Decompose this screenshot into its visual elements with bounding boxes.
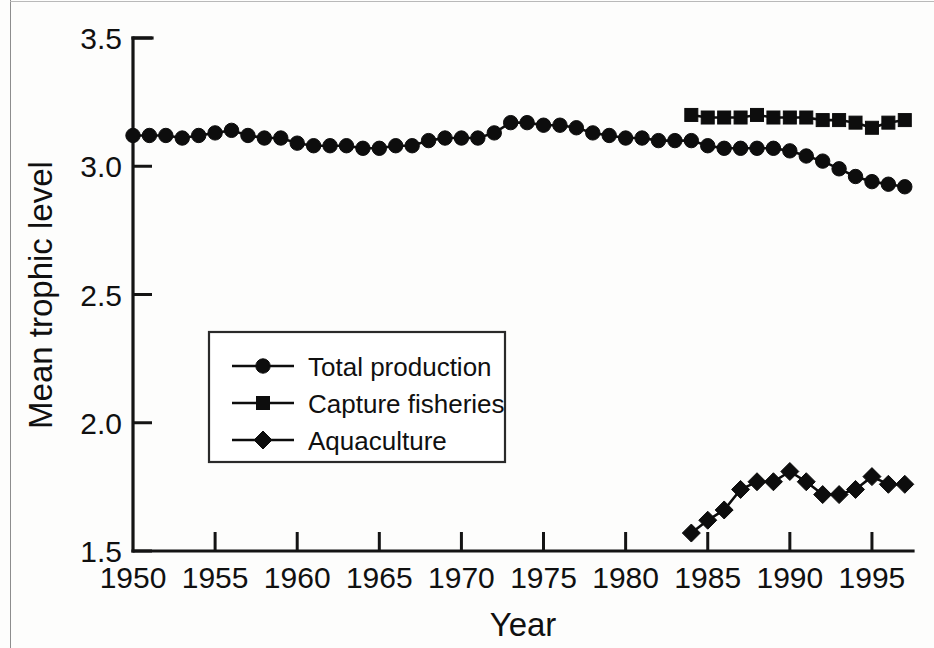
data-point xyxy=(832,162,846,176)
data-point xyxy=(569,121,583,135)
data-point xyxy=(421,133,435,147)
data-point xyxy=(536,118,550,132)
data-point xyxy=(142,128,156,142)
data-point xyxy=(848,169,862,183)
y-axis-title: Mean trophic level xyxy=(22,161,59,429)
x-tick-label: 1960 xyxy=(264,561,331,594)
data-point xyxy=(701,139,715,153)
legend-label: Total production xyxy=(308,352,492,382)
data-point xyxy=(306,139,320,153)
data-point xyxy=(800,111,813,124)
data-point xyxy=(882,116,895,129)
data-point xyxy=(701,111,714,124)
data-point xyxy=(750,141,764,155)
data-point xyxy=(865,174,879,188)
data-point xyxy=(224,123,238,137)
data-point xyxy=(553,118,567,132)
data-point xyxy=(208,126,222,140)
data-point xyxy=(718,111,731,124)
data-point xyxy=(290,136,304,150)
data-point xyxy=(767,111,780,124)
x-tick-label: 1985 xyxy=(674,561,741,594)
data-series-layer xyxy=(126,108,914,542)
series-aquaculture xyxy=(682,462,913,542)
legend-sample-marker xyxy=(257,397,270,410)
data-point xyxy=(372,141,386,155)
x-tick-label: 1995 xyxy=(839,561,906,594)
data-point xyxy=(748,473,766,491)
y-tick-label: 3.0 xyxy=(80,150,122,183)
data-point xyxy=(833,114,846,127)
data-point xyxy=(816,114,829,127)
data-point xyxy=(175,131,189,145)
data-point xyxy=(438,131,452,145)
x-tick-group xyxy=(215,532,872,551)
data-point xyxy=(684,133,698,147)
legend-label: Capture fisheries xyxy=(308,389,505,419)
series-capture-fisheries xyxy=(685,108,911,134)
data-point xyxy=(323,139,337,153)
data-point xyxy=(586,126,600,140)
x-tick-label: 1955 xyxy=(182,561,249,594)
legend-sample-marker xyxy=(256,359,270,373)
series-total-production xyxy=(126,115,912,194)
data-point xyxy=(734,111,747,124)
data-point xyxy=(849,116,862,129)
data-point xyxy=(356,141,370,155)
legend: Total productionCapture fisheriesAquacul… xyxy=(209,332,505,462)
x-tick-label: 1965 xyxy=(346,561,413,594)
page-left-border xyxy=(10,0,11,648)
data-point xyxy=(257,131,271,145)
x-tick-label: 1970 xyxy=(428,561,495,594)
data-point xyxy=(783,111,796,124)
data-point xyxy=(783,144,797,158)
data-point xyxy=(733,141,747,155)
data-point xyxy=(191,128,205,142)
page-top-border xyxy=(10,1,934,2)
data-point xyxy=(896,475,914,493)
data-point xyxy=(159,128,173,142)
x-tick-label: 1990 xyxy=(756,561,823,594)
y-tick-label: 2.0 xyxy=(80,407,122,440)
y-tick-label: 2.5 xyxy=(80,279,122,312)
figure-canvas: 1.52.02.53.03.5 195019551960196519701975… xyxy=(0,0,934,648)
data-point xyxy=(471,131,485,145)
data-point xyxy=(405,139,419,153)
data-point xyxy=(241,128,255,142)
data-point xyxy=(766,141,780,155)
data-point xyxy=(685,108,698,121)
data-point xyxy=(503,115,517,129)
y-tick-group xyxy=(133,38,152,551)
data-point xyxy=(881,177,895,191)
data-point xyxy=(274,131,288,145)
data-point xyxy=(799,149,813,163)
mean-trophic-level-line-chart: 1.52.02.53.03.5 195019551960196519701975… xyxy=(0,0,934,648)
x-tick-label: 1950 xyxy=(100,561,167,594)
data-point xyxy=(339,139,353,153)
data-point xyxy=(487,126,501,140)
data-point xyxy=(781,462,799,480)
data-point xyxy=(454,131,468,145)
y-tick-label: 3.5 xyxy=(80,22,122,55)
data-point xyxy=(815,154,829,168)
data-point xyxy=(751,108,764,121)
data-point xyxy=(898,180,912,194)
data-point xyxy=(635,131,649,145)
data-point xyxy=(126,128,140,142)
x-axis-title: Year xyxy=(490,606,557,643)
data-point xyxy=(830,486,848,504)
data-point xyxy=(668,133,682,147)
data-point xyxy=(879,475,897,493)
data-point xyxy=(764,473,782,491)
data-point xyxy=(602,128,616,142)
data-point xyxy=(618,131,632,145)
legend-label: Aquaculture xyxy=(308,426,447,456)
data-point xyxy=(865,121,878,134)
data-point xyxy=(389,139,403,153)
data-point xyxy=(651,133,665,147)
data-point xyxy=(717,141,731,155)
data-point xyxy=(898,114,911,127)
data-point xyxy=(520,115,534,129)
x-tick-label: 1975 xyxy=(510,561,577,594)
x-tick-label: 1980 xyxy=(592,561,659,594)
